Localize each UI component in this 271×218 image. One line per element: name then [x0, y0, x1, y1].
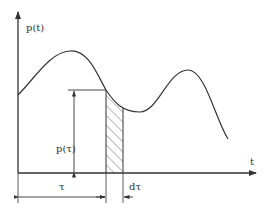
tau-label: τ: [59, 181, 65, 192]
y-axis-label: p(t): [26, 22, 44, 33]
x-axis-label: t: [250, 156, 254, 167]
dtau-label: dτ: [129, 181, 141, 192]
hatched-strip: [106, 85, 123, 173]
ordinate-label: p(τ): [56, 143, 76, 154]
diagram-canvas: p(t) t p(τ) τ dτ: [0, 0, 271, 218]
